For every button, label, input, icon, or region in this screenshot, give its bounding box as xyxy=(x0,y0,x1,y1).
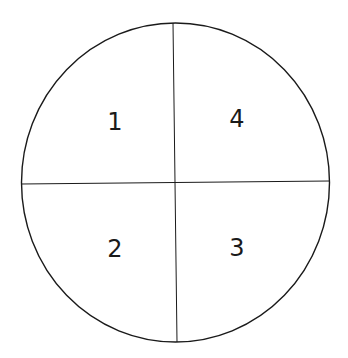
quadrant-label-bottom-right: 3 xyxy=(229,234,244,262)
quadrant-label-bottom-left: 2 xyxy=(107,235,122,263)
quadrant-circle-diagram: 1 2 3 4 xyxy=(0,0,348,358)
quadrant-label-top-right: 4 xyxy=(229,105,244,133)
quadrant-label-top-left: 1 xyxy=(107,108,122,136)
